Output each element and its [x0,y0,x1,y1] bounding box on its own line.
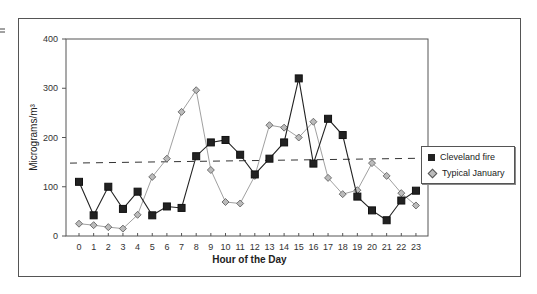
diamond-marker-icon [428,168,438,178]
square-marker [251,171,258,178]
x-tick-label: 18 [338,242,348,252]
x-tick-label: 22 [396,242,406,252]
square-marker [295,75,302,82]
square-marker [119,205,126,212]
y-tick-label: 100 [43,182,58,192]
x-tick-label: 13 [264,242,274,252]
x-tick-label: 19 [352,242,362,252]
square-marker [178,204,185,211]
x-tick-label: 20 [367,242,377,252]
series-line-typical-january [79,90,416,228]
x-tick-label: 17 [323,242,333,252]
legend-item-typical-january: Typical January [422,165,514,181]
square-marker [163,203,170,210]
y-axis-title: Micrograms/m³ [28,104,39,171]
square-marker [412,187,419,194]
x-tick-label: 3 [120,242,125,252]
series-line-cleveland-fire [79,78,416,220]
square-marker [237,151,244,158]
diamond-marker [237,200,244,207]
diamond-marker [105,224,112,231]
diamond-marker [207,167,214,174]
legend: Cleveland fire Typical January [421,146,515,184]
x-tick-label: 2 [106,242,111,252]
diamond-marker [76,220,83,227]
x-tick-label: 10 [220,242,230,252]
square-marker [354,193,361,200]
square-marker [222,136,229,143]
plot-area: 0100200300400012345678910111213141516171… [28,34,428,265]
square-marker [310,160,317,167]
y-tick-label: 200 [43,133,58,143]
square-marker [281,139,288,146]
diamond-marker [222,199,229,206]
legend-label: Cleveland fire [440,152,495,162]
square-marker [193,153,200,160]
x-tick-label: 12 [250,242,260,252]
x-tick-label: 14 [279,242,289,252]
square-marker [90,212,97,219]
x-tick-label: 1 [91,242,96,252]
square-marker [398,197,405,204]
x-tick-label: 0 [76,242,81,252]
diamond-marker [193,87,200,94]
square-marker [339,132,346,139]
x-tick-label: 16 [308,242,318,252]
y-tick-label: 400 [43,34,58,44]
square-marker [149,212,156,219]
y-tick-label: 0 [53,231,58,241]
legend-item-cleveland-fire: Cleveland fire [422,149,514,165]
square-marker [266,155,273,162]
x-tick-label: 6 [164,242,169,252]
square-marker [105,183,112,190]
square-marker [134,188,141,195]
x-tick-label: 21 [382,242,392,252]
x-tick-label: 11 [235,242,244,252]
square-marker [76,178,83,185]
diamond-marker [178,108,185,115]
square-marker [383,217,390,224]
x-tick-label: 9 [208,242,213,252]
legend-label: Typical January [442,168,505,178]
x-tick-label: 4 [135,242,140,252]
x-tick-label: 5 [150,242,155,252]
diamond-marker [90,222,97,229]
x-tick-label: 8 [194,242,199,252]
square-marker-icon [428,154,435,161]
x-tick-label: 23 [411,242,421,252]
square-marker [369,207,376,214]
x-tick-label: 7 [179,242,184,252]
diamond-marker [266,122,273,129]
x-tick-label: 15 [294,242,304,252]
square-marker [325,115,332,122]
square-marker [207,139,214,146]
y-tick-label: 300 [43,83,58,93]
x-axis-title: Hour of the Day [212,254,287,265]
